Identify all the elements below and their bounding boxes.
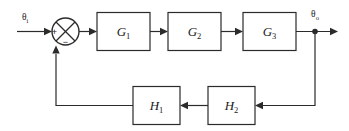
h2-to-h1-wire: [180, 102, 208, 109]
output-signal-label: θo: [311, 9, 319, 21]
h2-input-arrow-head: [255, 102, 263, 109]
g1-to-g2-wire: [150, 28, 168, 35]
output-arrow-head: [330, 28, 338, 35]
h1-input-arrow-head: [180, 102, 188, 109]
input-signal-wire: [17, 28, 52, 35]
block-g2: G2: [168, 13, 221, 51]
g3-input-arrow-head: [235, 28, 243, 35]
sum-to-g1-wire: [79, 28, 97, 35]
g3-to-output-wire: [296, 28, 338, 35]
block-g1: G1: [97, 13, 150, 51]
g2-input-arrow-head: [160, 28, 168, 35]
g1-input-arrow-head: [89, 28, 97, 35]
block-h2: H2: [208, 87, 255, 125]
input-arrow-head: [44, 28, 52, 35]
summing-junction-feedback-arrow-head: [52, 46, 59, 54]
input-signal-label: θi: [22, 12, 29, 24]
block-h1: H1: [133, 87, 180, 125]
block-diagram-svg: θi + − G1 G2: [0, 0, 349, 131]
g2-to-g3-wire: [221, 28, 243, 35]
h1-to-summing-junction-wire: [52, 46, 133, 106]
summing-junction-plus-sign: +: [52, 27, 57, 37]
summing-junction-minus-sign: −: [63, 37, 68, 47]
block-g3: G3: [243, 13, 296, 51]
block-diagram-canvas: θi + − G1 G2: [0, 0, 349, 131]
